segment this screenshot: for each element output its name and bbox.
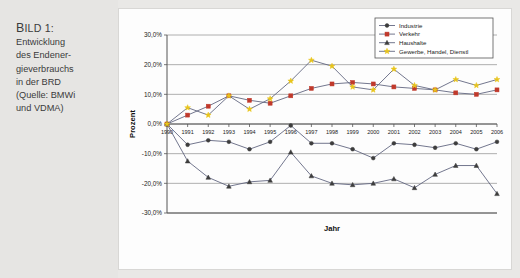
legend-item-label: Gewerbe, Handel, Dienstl: [399, 48, 468, 55]
chart-legend: IndustrieVerkehrHaushalteGewerbe, Handel…: [375, 18, 493, 58]
x-axis-tick-label: 1996: [285, 129, 297, 135]
y-axis-tick-label: 30,0%: [144, 31, 162, 38]
series-verkehr: [165, 80, 499, 126]
caption-title-rest: ILD 1:: [24, 22, 53, 34]
legend-item-label: Haushalte: [399, 39, 427, 46]
caption-column: BILD 1: Entwicklung des Endener- gieverb…: [0, 0, 118, 278]
line-chart: 30,0%20,0%10,0%0,0%-10,0%-20,0%-30,0%Pro…: [119, 9, 513, 271]
caption-line: in der BRD: [16, 76, 112, 89]
caption-line: und VDMA): [16, 102, 112, 115]
legend-item-label: Verkehr: [399, 30, 420, 37]
caption-line: des Endener-: [16, 49, 112, 62]
chart-plot-area: 30,0%20,0%10,0%0,0%-10,0%-20,0%-30,0%Pro…: [119, 9, 513, 271]
caption-inner: BILD 1: Entwicklung des Endener- gieverb…: [16, 22, 112, 115]
x-axis-tick-label: 2001: [388, 129, 400, 135]
x-axis-tick-label: 1997: [305, 129, 317, 135]
caption-line: gieverbrauchs: [16, 63, 112, 76]
x-axis-tick-label: 1998: [326, 129, 338, 135]
x-axis-tick-label: 2005: [470, 129, 482, 135]
y-axis-tick-label: 10,0%: [144, 91, 162, 98]
x-axis-tick-label: 1993: [223, 129, 235, 135]
chart-panel: 30,0%20,0%10,0%0,0%-10,0%-20,0%-30,0%Pro…: [118, 8, 512, 270]
y-axis-tick-label: -30,0%: [142, 209, 163, 216]
y-axis-title: Prozent: [128, 110, 137, 138]
x-axis-tick-label: 1999: [347, 129, 359, 135]
x-axis-title: Jahr: [324, 224, 340, 233]
x-axis-tick-label: 1991: [182, 129, 194, 135]
x-axis-tick-label: 2000: [367, 129, 379, 135]
x-axis-tick-label: 1992: [202, 129, 214, 135]
x-axis-tick-label: 2003: [429, 129, 441, 135]
caption-line: Entwicklung: [16, 36, 112, 49]
series-industrie: [165, 122, 499, 160]
y-axis-tick-label: 0,0%: [147, 120, 162, 127]
x-axis-tick-label: 2002: [408, 129, 420, 135]
y-axis-tick-label: -10,0%: [142, 150, 163, 157]
x-axis-tick-label: 2006: [491, 129, 503, 135]
x-axis-tick-label: 1994: [243, 129, 255, 135]
caption-title: BILD 1:: [16, 22, 112, 35]
caption-body: Entwicklung des Endener- gieverbrauchs i…: [16, 36, 112, 115]
y-axis-tick-label: 20,0%: [144, 61, 162, 68]
x-axis-tick-label: 2004: [450, 129, 462, 135]
legend-item-label: Industrie: [399, 22, 423, 29]
caption-line: (Quelle: BMWi: [16, 89, 112, 102]
y-axis-tick-label: -20,0%: [142, 180, 163, 187]
x-axis-tick-label: 1995: [264, 129, 276, 135]
